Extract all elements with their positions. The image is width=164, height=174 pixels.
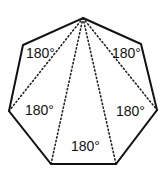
triangle-label-upper-right: 180° (112, 45, 141, 61)
triangle-label-left: 180° (25, 102, 54, 118)
triangle-label-upper-left: 180° (26, 45, 55, 61)
triangle-label-bottom: 180° (71, 138, 100, 154)
heptagon-diagram: 180° 180° 180° 180° 180° (0, 0, 164, 174)
angle-labels: 180° 180° 180° 180° 180° (25, 45, 145, 154)
diagonal-1 (9, 18, 83, 111)
triangle-label-right: 180° (116, 103, 145, 119)
